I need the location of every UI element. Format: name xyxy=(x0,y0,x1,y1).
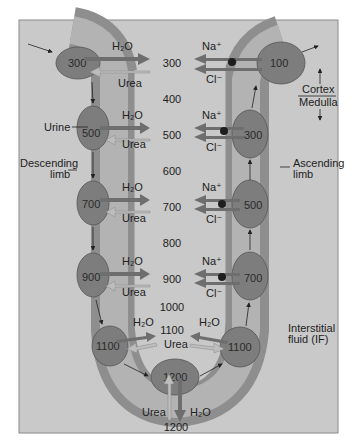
svg-text:Na⁺: Na⁺ xyxy=(202,40,222,52)
svg-text:500: 500 xyxy=(163,129,181,141)
svg-text:1100: 1100 xyxy=(160,324,184,336)
svg-text:H₂O: H₂O xyxy=(122,181,143,193)
svg-text:H₂O: H₂O xyxy=(122,255,143,267)
svg-text:Na⁺: Na⁺ xyxy=(202,181,222,193)
svg-text:Cortex: Cortex xyxy=(302,83,335,95)
svg-text:1100: 1100 xyxy=(96,340,120,352)
svg-text:H₂O: H₂O xyxy=(190,406,211,418)
svg-text:Cl⁻: Cl⁻ xyxy=(206,73,222,85)
svg-text:900: 900 xyxy=(82,271,100,283)
svg-text:700: 700 xyxy=(244,272,262,284)
svg-text:Urea: Urea xyxy=(142,406,167,418)
svg-text:Cl⁻: Cl⁻ xyxy=(206,141,222,153)
svg-text:300: 300 xyxy=(163,57,181,69)
svg-text:Urea: Urea xyxy=(122,212,147,224)
svg-text:800: 800 xyxy=(163,237,181,249)
svg-text:fluid (IF): fluid (IF) xyxy=(288,333,328,345)
svg-text:700: 700 xyxy=(82,198,100,210)
svg-text:1000: 1000 xyxy=(160,301,184,313)
svg-text:Na⁺: Na⁺ xyxy=(202,109,222,121)
svg-text:1100: 1100 xyxy=(228,341,252,353)
svg-text:300: 300 xyxy=(244,129,262,141)
svg-text:H₂O: H₂O xyxy=(112,40,133,52)
svg-text:Na⁺: Na⁺ xyxy=(202,255,222,267)
svg-text:Urea: Urea xyxy=(122,138,147,150)
svg-text:Cl⁻: Cl⁻ xyxy=(206,213,222,225)
svg-text:Medulla: Medulla xyxy=(299,96,338,108)
svg-text:H₂O: H₂O xyxy=(133,316,154,328)
svg-text:400: 400 xyxy=(163,93,181,105)
svg-text:Cl⁻: Cl⁻ xyxy=(206,287,222,299)
svg-text:100: 100 xyxy=(270,57,288,69)
svg-text:H₂O: H₂O xyxy=(199,316,220,328)
svg-text:H₂O: H₂O xyxy=(122,109,143,121)
svg-text:limb: limb xyxy=(293,168,313,180)
svg-text:1200: 1200 xyxy=(164,421,188,433)
loop-of-henle-diagram: 300 400 500 600 700 800 900 1000 1100 30… xyxy=(0,0,355,448)
svg-text:500: 500 xyxy=(82,127,100,139)
svg-text:900: 900 xyxy=(163,273,181,285)
svg-text:limb: limb xyxy=(50,168,70,180)
svg-text:Urine: Urine xyxy=(44,121,70,133)
svg-text:700: 700 xyxy=(163,201,181,213)
svg-text:Urea: Urea xyxy=(118,77,143,89)
svg-text:600: 600 xyxy=(163,165,181,177)
svg-text:300: 300 xyxy=(68,57,86,69)
svg-text:Urea: Urea xyxy=(164,338,189,350)
svg-text:500: 500 xyxy=(244,199,262,211)
svg-text:Urea: Urea xyxy=(122,286,147,298)
